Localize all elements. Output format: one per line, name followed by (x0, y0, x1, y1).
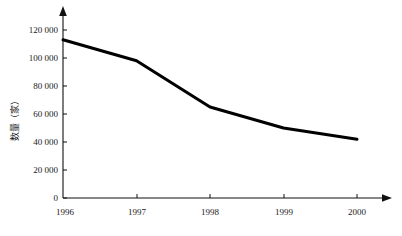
y-tick-label-40000: 40 000 (33, 137, 58, 147)
line-chart: 0 20 000 40 000 60 000 80 000 100 000 12… (0, 0, 402, 236)
y-axis-title: 数量（家） (9, 96, 20, 141)
x-tick-label-1997: 1997 (128, 207, 147, 217)
y-tick-label-20000: 20 000 (33, 165, 58, 175)
x-tick-label-1996: 1996 (56, 207, 75, 217)
chart-canvas: 0 20 000 40 000 60 000 80 000 100 000 12… (0, 0, 402, 236)
x-tick-label-2000: 2000 (348, 207, 367, 217)
x-tick-label-1998: 1998 (201, 207, 220, 217)
x-tick-label-1999: 1999 (275, 207, 294, 217)
y-tick-label-80000: 80 000 (33, 81, 58, 91)
y-tick-label-60000: 60 000 (33, 109, 58, 119)
y-tick-label-120000: 120 000 (29, 25, 59, 35)
chart-background (0, 0, 402, 236)
y-tick-label-100000: 100 000 (29, 53, 59, 63)
y-tick-label-0: 0 (54, 193, 59, 203)
